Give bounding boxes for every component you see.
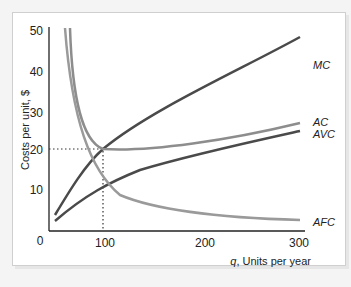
chart: 50 40 30 20 10 0 100 200 300 Costs per u… — [0, 0, 351, 287]
y-axis-label: Costs per unit, $ — [19, 90, 31, 170]
y-tick-20: 20 — [30, 143, 44, 157]
x-tick-200: 200 — [195, 236, 215, 250]
y-tick-30: 30 — [30, 106, 44, 120]
x-tick-100: 100 — [95, 236, 115, 250]
y-tick-40: 40 — [30, 65, 44, 79]
x-axis-label: q, Units per year — [230, 255, 311, 267]
avc-label: AVC — [312, 128, 335, 140]
mc-curve — [55, 37, 300, 215]
x-tick-300: 300 — [289, 236, 309, 250]
mc-label: MC — [313, 59, 330, 71]
ac-label: AC — [312, 116, 328, 128]
y-tick-50: 50 — [30, 24, 44, 38]
y-tick-10: 10 — [30, 183, 44, 197]
afc-label: AFC — [312, 216, 335, 228]
ac-curve — [70, 28, 300, 149]
x-tick-0: 0 — [37, 234, 44, 248]
